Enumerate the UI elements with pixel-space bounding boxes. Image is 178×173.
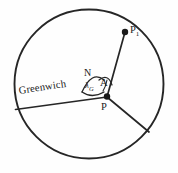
label-point-p: P (101, 102, 107, 113)
meridian-p-line (107, 97, 149, 132)
greenwich-meridian-line (16, 97, 108, 110)
label-point-p1: P1 (130, 25, 139, 38)
azimuth-line-p-to-p1 (107, 32, 125, 97)
p1-subscript: 1 (136, 30, 140, 38)
point-marker-p1 (122, 29, 128, 35)
longitude-angle-arc (82, 92, 104, 96)
lambda-subscript: G (89, 85, 94, 92)
label-azimuth: A (100, 78, 108, 89)
geodesy-diagram: Greenwich N A λG P1 P (0, 0, 178, 173)
label-north: N (84, 68, 91, 78)
point-marker-p (104, 93, 110, 99)
label-longitude-lambda-g: λG (85, 81, 94, 92)
